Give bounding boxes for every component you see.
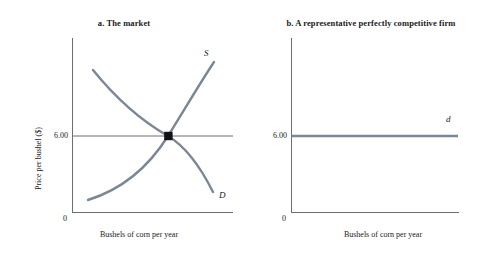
panel-b-plot bbox=[247, 0, 495, 270]
panel-representative-firm: b. A representative perfectly competitiv… bbox=[247, 0, 495, 270]
panel-market: a. The market Price per bushel ($) Bushe… bbox=[0, 0, 248, 270]
economics-figure: a. The market Price per bushel ($) Bushe… bbox=[0, 0, 495, 270]
demand-curve bbox=[93, 70, 213, 192]
panel-a-plot bbox=[0, 0, 248, 270]
equilibrium-marker bbox=[164, 132, 172, 140]
supply-curve bbox=[88, 62, 214, 200]
